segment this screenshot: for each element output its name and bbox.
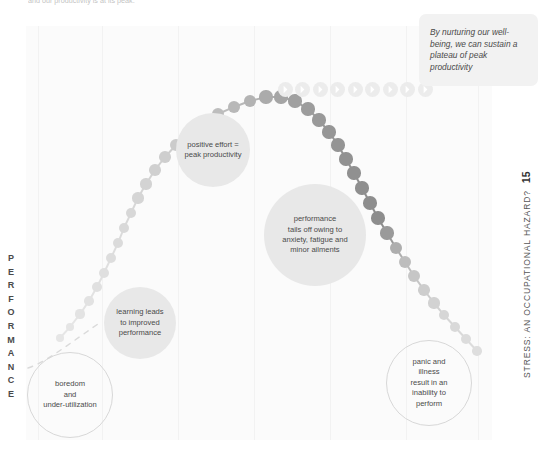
curve-dot — [56, 334, 64, 342]
annotation-bubble-line: under-utilization — [43, 400, 97, 410]
annotation-bubble-panic: panic andillnessresult in aninability to… — [386, 340, 472, 426]
annotation-bubble-line: anxiety, fatigue and — [282, 235, 347, 245]
plateau-arrow-puck — [348, 82, 363, 97]
annotation-bubble-line: boredom — [43, 379, 97, 389]
y-axis-label-letter: E — [2, 388, 20, 402]
annotation-bubble-text: panic andillnessresult in aninability to… — [410, 357, 447, 409]
annotation-bubble-line: result in an — [410, 378, 447, 388]
curve-dot — [331, 138, 344, 151]
curve-dot — [228, 101, 241, 114]
chevron-right-icon — [317, 85, 324, 94]
callout-box: By nurturing our well-being, we can sust… — [419, 14, 538, 86]
curve-dot — [140, 178, 151, 189]
annotation-bubble-line: inability to — [410, 388, 447, 398]
chevron-right-icon — [352, 85, 359, 94]
curve-dot — [355, 181, 368, 194]
curve-dot — [126, 208, 137, 219]
annotation-bubble-line: panic and — [410, 357, 447, 367]
annotation-bubble-line: and — [43, 390, 97, 400]
annotation-bubble-learning: learning leadsto improvedperformance — [104, 287, 176, 359]
chevron-right-icon — [334, 85, 341, 94]
callout-text: By nurturing our well-being, we can sust… — [430, 27, 518, 72]
curve-dot — [380, 226, 393, 239]
plateau-arrow-puck — [295, 82, 310, 97]
curve-dot — [159, 151, 171, 163]
annotation-bubble-line: learning leads — [116, 307, 163, 317]
annotation-bubble-line: perform — [410, 399, 447, 409]
curve-dot — [322, 125, 335, 138]
plateau-arrow-puck — [278, 82, 293, 97]
plateau-arrow-puck — [383, 82, 398, 97]
y-axis-label-letter: C — [2, 374, 20, 388]
curve-dot — [149, 164, 161, 176]
plateau-arrow-puck — [365, 82, 380, 97]
annotation-bubble-line: performance — [116, 328, 163, 338]
chevron-right-icon — [404, 85, 411, 94]
curve-dot — [418, 284, 430, 296]
grid-line — [478, 26, 479, 440]
curve-dot — [132, 192, 143, 203]
curve-dot — [99, 268, 109, 278]
curve-dot — [75, 309, 84, 318]
chevron-right-icon — [387, 85, 394, 94]
annotation-bubble-line: tails off owing to — [282, 225, 347, 235]
y-axis-label-letter: E — [2, 266, 20, 280]
curve-dot — [312, 113, 325, 126]
y-axis-label-letter: N — [2, 361, 20, 375]
y-axis-label-letter: R — [2, 279, 20, 293]
y-axis-label-letter: A — [2, 347, 20, 361]
running-head-title: STRESS: AN OCCUPATIONAL HAZARD? — [522, 190, 532, 378]
annotation-bubble-line: minor ailments — [282, 245, 347, 255]
plateau-arrow-puck — [330, 82, 345, 97]
plateau-arrow-puck — [400, 82, 415, 97]
plateau-arrow-puck — [313, 82, 328, 97]
y-axis-label-letter: R — [2, 320, 20, 334]
annotation-bubble-peak: positive effort =peak productivity — [176, 113, 250, 187]
y-axis-label-letter: O — [2, 306, 20, 320]
curve-dot — [371, 211, 385, 225]
page-number: 15 — [520, 171, 532, 183]
annotation-bubble-boredom: boredomandunder-utilization — [27, 352, 113, 438]
y-axis-label: PERFORMANCE — [2, 252, 20, 402]
annotation-bubble-tails-off: performancetails off owing toanxiety, fa… — [264, 184, 366, 286]
curve-dot — [119, 223, 130, 234]
grid-line — [178, 26, 179, 440]
annotation-bubble-line: peak productivity — [185, 150, 242, 160]
curve-dot — [66, 323, 75, 332]
top-caption: and our productivity is at its peak. — [28, 0, 328, 5]
curve-dot — [92, 282, 102, 292]
curve-dot — [347, 166, 360, 179]
curve-dot — [339, 152, 352, 165]
grid-line — [254, 26, 255, 440]
annotation-bubble-text: performancetails off owing toanxiety, fa… — [282, 214, 347, 256]
curve-dot — [84, 296, 94, 306]
annotation-bubble-text: boredomandunder-utilization — [43, 379, 97, 410]
curve-dot — [259, 90, 272, 103]
curve-dot — [408, 270, 420, 282]
y-axis-label-letter: M — [2, 334, 20, 348]
curve-dot — [472, 346, 482, 356]
annotation-bubble-text: positive effort =peak productivity — [185, 140, 242, 161]
running-head: STRESS: AN OCCUPATIONAL HAZARD? 15 — [512, 112, 536, 372]
chevron-right-icon — [299, 85, 306, 94]
chevron-right-icon — [282, 85, 289, 94]
curve-dot — [113, 238, 123, 248]
curve-dot — [301, 102, 314, 115]
chevron-right-icon — [369, 85, 376, 94]
y-axis-label-letter: P — [2, 252, 20, 266]
annotation-bubble-text: learning leadsto improvedperformance — [116, 307, 163, 338]
annotation-bubble-line: illness — [410, 367, 447, 377]
annotation-bubble-line: performance — [282, 214, 347, 224]
curve-dot — [461, 334, 471, 344]
y-axis-label-letter: F — [2, 293, 20, 307]
curve-dot — [363, 196, 377, 210]
curve-dot — [106, 253, 116, 263]
annotation-bubble-line: to improved — [116, 318, 163, 328]
annotation-bubble-line: positive effort = — [185, 140, 242, 150]
curve-dot — [428, 297, 439, 308]
